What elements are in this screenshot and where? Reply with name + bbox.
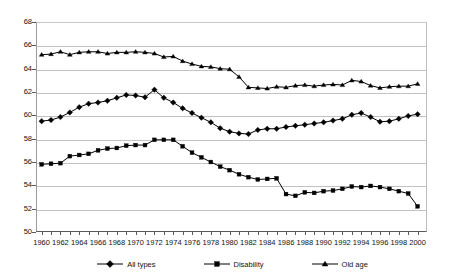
square-marker xyxy=(68,154,72,158)
series-disability xyxy=(40,138,420,208)
diamond-marker xyxy=(274,126,280,132)
square-marker xyxy=(200,155,204,159)
legend-item-disability[interactable]: Disability xyxy=(202,259,264,269)
diamond-marker xyxy=(358,110,364,116)
square-marker xyxy=(77,153,81,157)
series-old-age xyxy=(39,50,420,91)
legend-swatch xyxy=(202,259,232,269)
diamond-marker xyxy=(170,100,176,106)
square-marker xyxy=(331,189,335,193)
diamond-marker xyxy=(180,106,186,112)
square-marker xyxy=(87,152,91,156)
diamond-marker xyxy=(114,95,120,101)
diamond-marker xyxy=(377,119,383,125)
diamond-marker xyxy=(58,114,64,120)
square-marker xyxy=(350,185,354,189)
square-marker xyxy=(265,177,269,181)
diamond-marker xyxy=(76,104,82,110)
diamond-marker xyxy=(349,112,355,118)
square-marker xyxy=(153,138,157,142)
diamond-marker xyxy=(236,131,242,137)
legend-label: Disability xyxy=(234,260,264,269)
square-marker xyxy=(143,143,147,147)
legend-item-old-age[interactable]: Old age xyxy=(310,259,368,269)
diamond-marker xyxy=(311,121,317,127)
diamond-marker xyxy=(387,118,393,124)
square-marker xyxy=(214,262,219,267)
diamond-marker xyxy=(321,120,327,126)
square-marker xyxy=(256,178,260,182)
square-marker xyxy=(359,185,363,189)
square-marker xyxy=(416,204,420,208)
diamond-marker xyxy=(246,131,252,137)
diamond-marker xyxy=(396,116,402,122)
square-marker xyxy=(218,165,222,169)
diamond-marker xyxy=(95,100,101,106)
square-marker xyxy=(294,194,298,198)
diamond-marker xyxy=(217,125,223,131)
diamond-marker xyxy=(105,98,111,104)
diamond-marker xyxy=(283,124,289,130)
legend-label: All types xyxy=(127,260,155,269)
diamond-marker xyxy=(67,110,73,116)
diamond-marker xyxy=(48,117,54,123)
diamond-marker xyxy=(255,127,261,133)
square-marker xyxy=(106,147,110,151)
square-marker xyxy=(115,146,119,150)
square-marker xyxy=(275,176,279,180)
diamond-marker xyxy=(405,113,411,119)
square-marker xyxy=(247,175,251,179)
square-marker xyxy=(322,189,326,193)
square-marker xyxy=(378,185,382,189)
diamond-marker xyxy=(208,120,214,126)
diamond-marker xyxy=(330,118,336,124)
diamond-marker xyxy=(227,129,233,135)
square-marker xyxy=(237,172,241,176)
square-marker xyxy=(406,192,410,196)
square-marker xyxy=(171,138,175,142)
square-marker xyxy=(303,190,307,194)
square-marker xyxy=(228,168,232,172)
diamond-marker xyxy=(39,118,45,124)
square-marker xyxy=(181,144,185,148)
diamond-marker xyxy=(123,92,129,98)
diamond-marker xyxy=(302,122,308,128)
square-marker xyxy=(341,187,345,191)
legend-item-all-types[interactable]: All types xyxy=(95,259,155,269)
diamond-marker xyxy=(107,261,114,268)
diamond-marker xyxy=(86,101,92,107)
diamond-marker xyxy=(133,93,139,99)
square-marker xyxy=(40,162,44,166)
square-marker xyxy=(162,138,166,142)
square-marker xyxy=(284,192,288,196)
diamond-marker xyxy=(368,114,374,120)
square-marker xyxy=(397,189,401,193)
line-chart: 5052545658606264666819601962196419661968… xyxy=(0,0,451,280)
square-marker xyxy=(134,143,138,147)
legend-swatch xyxy=(310,259,340,269)
diamond-marker xyxy=(199,115,205,121)
triangle-marker xyxy=(415,82,420,86)
diamond-marker xyxy=(189,110,195,116)
square-marker xyxy=(312,191,316,195)
series-all-types xyxy=(39,87,420,137)
square-marker xyxy=(96,148,100,152)
diamond-marker xyxy=(293,123,299,129)
legend-swatch xyxy=(95,259,125,269)
square-marker xyxy=(209,160,213,164)
square-marker xyxy=(59,161,63,165)
series-layer xyxy=(0,0,451,280)
square-marker xyxy=(124,144,128,148)
square-marker xyxy=(49,162,53,166)
legend-label: Old age xyxy=(342,260,368,269)
triangle-marker xyxy=(58,50,63,54)
diamond-marker xyxy=(340,116,346,122)
diamond-marker xyxy=(264,126,270,132)
square-marker xyxy=(388,187,392,191)
diamond-marker xyxy=(415,111,421,117)
chart-legend: All typesDisabilityOld age xyxy=(36,254,427,274)
square-marker xyxy=(190,151,194,155)
square-marker xyxy=(369,184,373,188)
